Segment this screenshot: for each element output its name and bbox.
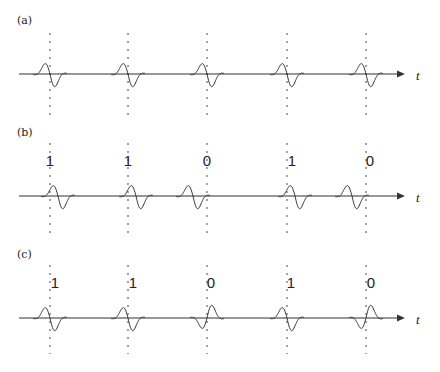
pulse-waveform (41, 186, 75, 209)
axis-arrow-icon (397, 71, 405, 78)
pulse-waveform (111, 64, 145, 87)
bit-label: 0 (207, 274, 215, 291)
axis-arrow-icon (397, 315, 405, 322)
pulse-train-b (41, 186, 369, 209)
pulse-waveform (119, 186, 153, 209)
panel-b: (b) 1 1 0 1 0 t (17, 126, 420, 236)
pulse-waveform (270, 64, 304, 87)
bit-label: 0 (367, 274, 375, 291)
bit-label: 1 (51, 274, 59, 291)
panel-c: (c) 1 1 0 1 0 t (17, 248, 420, 354)
pulse-waveform (190, 64, 224, 87)
bit-labels-b: 1 1 0 1 0 (46, 152, 374, 169)
axis-arrow-icon (397, 193, 405, 200)
pulse-waveform (335, 186, 369, 209)
axis-label-t-b: t (416, 190, 420, 205)
bit-labels-c: 1 1 0 1 0 (51, 274, 375, 291)
axis-label-t-c: t (416, 312, 420, 327)
pulse-waveform (349, 305, 383, 328)
pulse-waveform (176, 186, 210, 209)
bit-label: 1 (288, 152, 296, 169)
bit-label: 1 (287, 274, 295, 291)
pulse-waveform (33, 64, 67, 87)
bit-label: 0 (366, 152, 374, 169)
axis-label-t-a: t (416, 68, 420, 83)
slot-lines-a (50, 33, 366, 117)
pulse-waveform (33, 308, 67, 331)
pulse-waveform (270, 308, 304, 331)
pulse-waveform (190, 305, 224, 328)
panel-label-a: (a) (17, 14, 32, 27)
pulse-waveform (278, 186, 312, 209)
panel-a: (a) t (17, 14, 420, 117)
bit-label: 0 (203, 152, 211, 169)
panel-label-b: (b) (17, 126, 33, 139)
bit-label: 1 (46, 152, 54, 169)
pulse-modulation-diagram: (a) t (b) 1 1 0 1 0 t (c) (0, 0, 440, 372)
pulse-train-a (33, 64, 383, 87)
pulse-waveform (349, 64, 383, 87)
diagram-canvas: (a) t (b) 1 1 0 1 0 t (c) (0, 0, 440, 372)
bit-label: 1 (124, 152, 132, 169)
bit-label: 1 (129, 274, 137, 291)
pulse-waveform (111, 308, 145, 331)
panel-label-c: (c) (17, 248, 32, 261)
